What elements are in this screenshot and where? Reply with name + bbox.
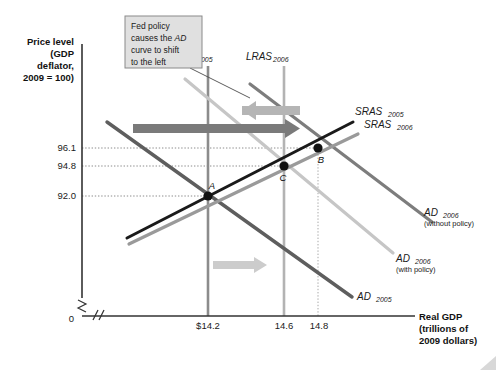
ad-2006-with-label-sub: 2006	[414, 258, 431, 265]
figure-canvas: A C B Price level (GDP deflator, 2009 = …	[0, 0, 498, 372]
callout-line-2-pre: causes the	[131, 33, 174, 43]
callout-annotation: Fed policy causes the AD curve to shift …	[125, 16, 250, 98]
ad-2006-without-policy-line[interactable]	[250, 84, 432, 222]
ad-2005-label-text: AD	[356, 291, 371, 302]
y-tick-92-0: 92.0	[58, 190, 77, 201]
y-axis-title: Price level (GDP deflator, 2009 = 100)	[23, 36, 75, 83]
ad-2006-without-label-note: (without policy)	[424, 219, 475, 228]
ad-2006-without-label-sub: 2006	[442, 212, 459, 219]
equilibrium-points	[203, 143, 322, 200]
sras-2005-label-sub: 2005	[387, 111, 404, 118]
ad-2006-without-label-text: AD	[423, 207, 438, 218]
sras-2005-line[interactable]	[127, 122, 353, 238]
point-c-label: C	[280, 172, 287, 183]
ad-2006-with-policy-label: AD 2006 (with policy)	[395, 253, 436, 274]
y-tick-96-1: 96.1	[58, 142, 77, 153]
sras-2006-label: SRAS 2006	[364, 119, 413, 131]
sras-2006-label-text: SRAS	[364, 119, 392, 130]
lras-shift-right-arrow	[213, 257, 267, 273]
ad-2005-label-sub: 2005	[375, 296, 392, 303]
point-c-marker[interactable]	[279, 161, 288, 170]
origin-label: 0	[69, 313, 74, 324]
x-tick-14-6: 14.6	[275, 320, 294, 331]
lras-2006-label-text: LRAS	[246, 51, 272, 62]
point-a-label: A	[208, 180, 215, 191]
y-axis-title-line-1: Price level	[27, 36, 74, 47]
axis-lines	[78, 44, 415, 320]
sras-2006-line[interactable]	[129, 134, 358, 244]
callout-line-4: to the left	[131, 57, 167, 67]
x-axis-title-line-2: (trillions of	[419, 323, 469, 334]
y-tick-94-8: 94.8	[58, 160, 77, 171]
ad-2006-without-policy-label: AD 2006 (without policy)	[423, 207, 475, 228]
ad-2006-with-label-note: (with policy)	[396, 265, 436, 274]
point-b-label: B	[318, 154, 325, 165]
y-axis-tick-labels: 96.1 94.8 92.0	[58, 142, 77, 201]
callout-line-3: curve to shift	[131, 45, 180, 55]
callout-leader-line	[190, 68, 250, 98]
sras-2006-label-sub: 2006	[396, 124, 413, 131]
y-axis-title-line-4: 2009 = 100)	[23, 72, 74, 83]
x-axis-break-mark	[93, 310, 104, 320]
x-axis-title-line-1: Real GDP	[419, 311, 463, 322]
callout-line-1: Fed policy	[131, 21, 170, 31]
x-axis-tick-labels: $14.2 14.6 14.8	[196, 320, 328, 331]
shift-arrows	[133, 101, 300, 273]
y-axis-title-line-2: (GDP	[50, 48, 74, 59]
sras-2005-label: SRAS 2005	[355, 106, 404, 118]
x-axis-title: Real GDP (trillions of 2009 dollars)	[419, 311, 477, 346]
callout-line-2-em: AD	[173, 33, 186, 43]
x-axis-title-line-3: 2009 dollars)	[419, 335, 477, 346]
sras-2005-label-text: SRAS	[355, 106, 383, 117]
lras-2006-label-sub: 2006	[272, 56, 289, 63]
ad-2006-with-label-text: AD	[395, 253, 410, 264]
y-axis-break-mark	[78, 300, 86, 312]
x-tick-14-8: 14.8	[310, 320, 329, 331]
point-b-marker[interactable]	[313, 143, 322, 152]
point-a-marker[interactable]	[203, 191, 212, 200]
x-tick-14-2: $14.2	[196, 320, 220, 331]
lras-2006-label: LRAS 2006	[246, 51, 289, 63]
sras-shift-right-arrow	[133, 119, 300, 138]
callout-line-2: causes the AD	[131, 33, 186, 43]
y-axis-title-line-3: deflator,	[37, 60, 74, 71]
aggregate-demand-supply-figure: A C B Price level (GDP deflator, 2009 = …	[0, 0, 498, 372]
ad-2005-label: AD 2005	[356, 291, 392, 303]
